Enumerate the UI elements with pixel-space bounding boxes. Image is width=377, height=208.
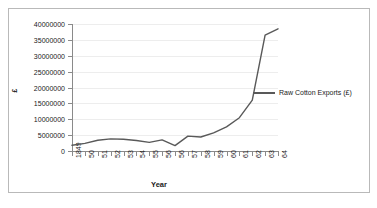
chart-frame: 0500000010000000150000002000000025000000… xyxy=(8,8,370,193)
y-axis-title: £ xyxy=(11,89,18,93)
series-plot xyxy=(9,9,371,194)
series-line-raw-cotton-exports xyxy=(72,29,278,146)
chart-legend: Raw Cotton Exports (£) xyxy=(253,89,352,96)
legend-label-raw-cotton-exports: Raw Cotton Exports (£) xyxy=(279,89,352,96)
x-axis-title: Year xyxy=(9,181,309,189)
legend-swatch-raw-cotton-exports xyxy=(253,92,275,94)
